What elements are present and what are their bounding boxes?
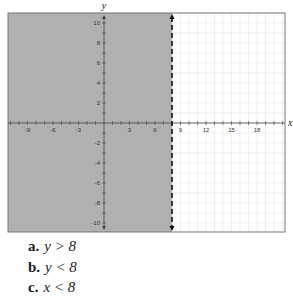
- y-tick-label: -10: [91, 220, 100, 226]
- option-expression: y > 8: [44, 238, 76, 254]
- y-tick-label: 10: [93, 20, 100, 26]
- shaded-region: [8, 13, 172, 232]
- y-tick-label: -2: [95, 140, 101, 146]
- x-tick-label: -9: [25, 127, 31, 133]
- y-axis-label: y: [101, 0, 107, 11]
- option-a[interactable]: a.y > 8: [28, 236, 77, 257]
- x-axis-label: x: [287, 117, 293, 128]
- x-tick-label: 12: [203, 127, 210, 133]
- x-tick-label: -6: [50, 127, 56, 133]
- inequality-graph: -9-6-3369121518108642-2-4-6-8-10yx: [0, 0, 293, 236]
- y-tick-label: -8: [95, 200, 101, 206]
- option-letter: c.: [28, 279, 38, 295]
- answer-options: a.y > 8 b.y < 8 c.x < 8: [28, 236, 77, 297]
- option-letter: b.: [28, 259, 40, 275]
- option-expression: y < 8: [45, 259, 77, 275]
- y-tick-label: -6: [95, 180, 101, 186]
- x-tick-label: 15: [228, 127, 235, 133]
- option-expression: x < 8: [43, 279, 75, 295]
- x-tick-label: 18: [254, 127, 261, 133]
- x-tick-label: -3: [76, 127, 82, 133]
- option-letter: a.: [28, 238, 39, 254]
- option-c[interactable]: c.x < 8: [28, 277, 77, 297]
- option-b[interactable]: b.y < 8: [28, 257, 77, 278]
- y-tick-label: -4: [95, 160, 101, 166]
